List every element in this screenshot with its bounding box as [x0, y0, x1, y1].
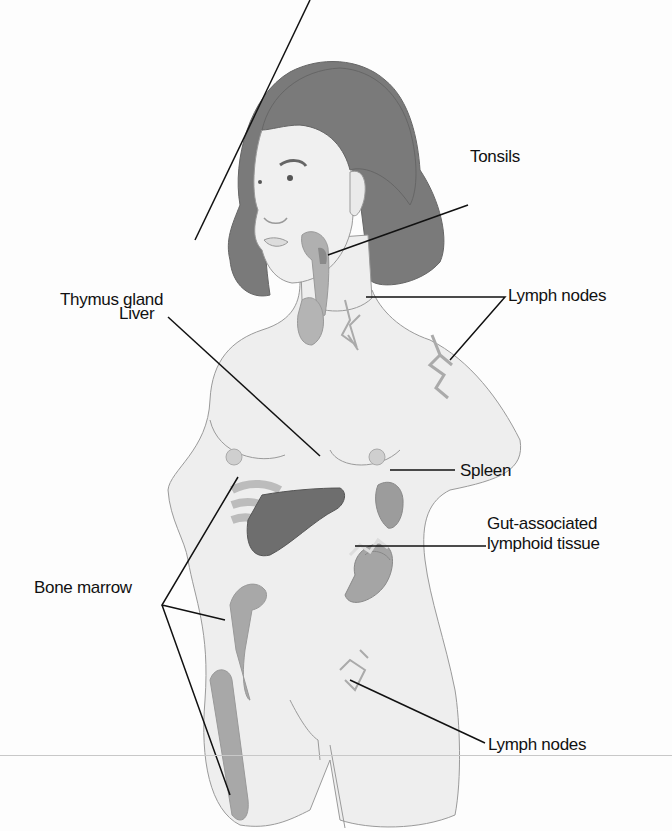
lymphatic-system-illustration	[0, 0, 672, 831]
label-bone-marrow: Bone marrow	[34, 578, 132, 598]
label-liver: Liver	[119, 304, 154, 324]
label-lymph-nodes-upper: Lymph nodes	[508, 286, 606, 306]
label-galt-line1: Gut-associated	[487, 514, 597, 534]
label-spleen: Spleen	[460, 461, 511, 481]
label-lymph-nodes-lower: Lymph nodes	[488, 735, 586, 755]
page-divider	[0, 755, 672, 756]
thymus-organ	[298, 298, 324, 345]
label-tonsils: Tonsils	[470, 147, 520, 167]
label-galt-line2: lymphoid tissue	[487, 534, 600, 554]
